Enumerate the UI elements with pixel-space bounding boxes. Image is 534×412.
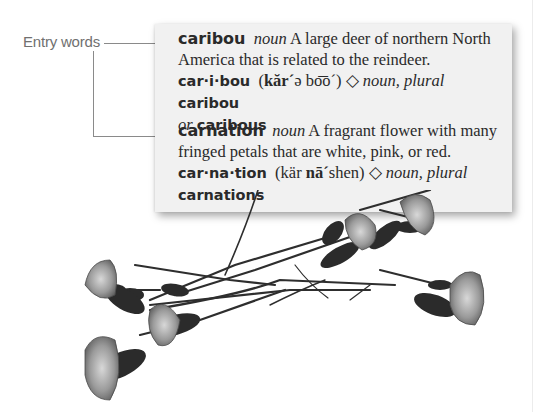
- pronunciation-open: (kär: [275, 163, 306, 182]
- headword: caribou: [178, 29, 246, 48]
- pronunciation-stress: nā´: [306, 163, 329, 182]
- diamond-icon: ◇: [346, 71, 359, 90]
- inflection-label: noun, plural: [363, 71, 445, 90]
- connector-line-vertical: [93, 51, 94, 137]
- dictionary-card: caribou noun A large deer of northern No…: [155, 24, 512, 212]
- pronunciation-stress: kăr´: [264, 71, 294, 90]
- pronunciation-rest: shen): [329, 163, 365, 182]
- part-of-speech: noun: [272, 121, 305, 140]
- headword: carnation: [178, 121, 264, 140]
- callout-label: Entry words: [23, 33, 100, 50]
- connector-line-bottom: [93, 136, 158, 137]
- diamond-icon: ◇: [369, 163, 382, 182]
- plural-form: caribou: [178, 95, 239, 111]
- connector-line-top: [104, 43, 158, 44]
- part-of-speech: noun: [254, 29, 287, 48]
- syllabification: car·i·bou: [178, 73, 250, 89]
- syllabification: car·na·tion: [178, 165, 267, 181]
- inflection-label: noun, plural: [386, 163, 468, 182]
- carnation-illustration: [80, 190, 500, 412]
- page-edge-rule: [532, 0, 533, 412]
- pronunciation-rest: ə bo͞o´): [294, 71, 341, 90]
